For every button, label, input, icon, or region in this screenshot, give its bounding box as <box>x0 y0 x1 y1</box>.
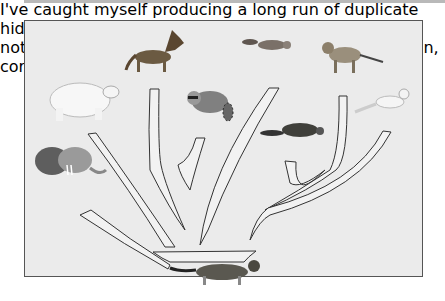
trunk <box>153 251 256 262</box>
dog-icon <box>126 30 184 72</box>
primitive-mammal-icon <box>170 260 260 285</box>
civet-icon <box>260 123 324 137</box>
polar-bear-icon <box>50 83 119 121</box>
raccoon-icon <box>187 91 233 121</box>
branch-raccoons <box>178 138 205 190</box>
weasel-icon <box>242 39 291 50</box>
cat-icon <box>355 89 409 112</box>
walrus-icon <box>35 147 106 175</box>
branch-hyenas <box>265 96 347 210</box>
branch-dogs <box>149 89 185 230</box>
branch-cats <box>250 131 391 240</box>
hyena-icon <box>322 42 383 73</box>
phylogenetic-tree <box>0 0 445 301</box>
